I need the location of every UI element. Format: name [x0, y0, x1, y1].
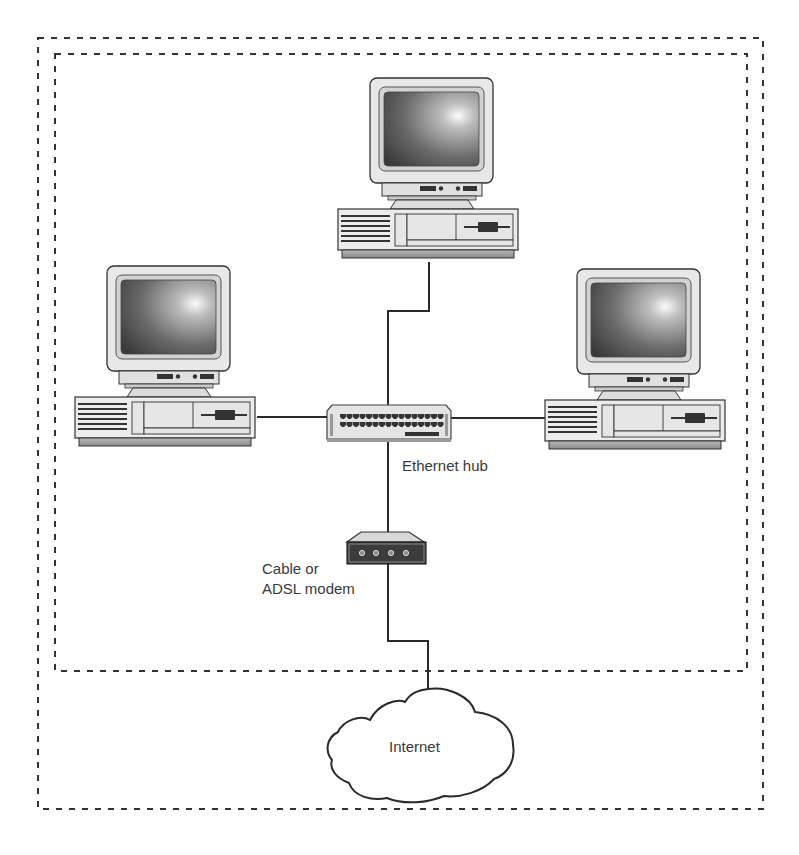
cable-top [388, 262, 429, 405]
cable-modem-internet [388, 564, 428, 689]
modem-label-line2: ADSL modem [262, 579, 355, 599]
computer-right [545, 269, 725, 449]
modem-icon [347, 532, 426, 564]
internet-label: Internet [389, 737, 440, 757]
ethernet-hub-icon [327, 405, 451, 442]
network-diagram [0, 0, 799, 855]
cables [257, 262, 545, 689]
computer-top [338, 78, 518, 258]
ethernet-hub-label: Ethernet hub [402, 456, 488, 476]
modem-label-line1: Cable or [262, 559, 319, 579]
computer-left [75, 266, 255, 446]
